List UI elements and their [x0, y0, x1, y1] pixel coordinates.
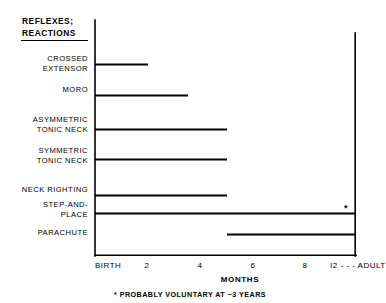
- xtick-label-8: 8: [303, 261, 308, 270]
- row-label-line2: EXTENSOR: [43, 64, 88, 73]
- asterisk-annotation-icon: *: [344, 203, 348, 213]
- reflexes-reactions-timeline-chart: REFLEXES; REACTIONS CROSSED EXTENSOR MOR…: [0, 0, 386, 303]
- row-label-crossed-extensor: CROSSED EXTENSOR: [43, 54, 88, 73]
- row-label-symmetric-tonic-neck: SYMMETRIC TONIC NECK: [37, 146, 88, 165]
- xtick-label-4: 4: [198, 261, 203, 270]
- row-label-line1: PARACHUTE: [38, 228, 88, 237]
- row-label-moro: MORO: [63, 85, 88, 94]
- row-label-line2: TONIC NECK: [37, 156, 88, 165]
- chart-container: REFLEXES; REACTIONS CROSSED EXTENSOR MOR…: [0, 0, 386, 303]
- row-label-line1: MORO: [63, 85, 88, 94]
- x-axis-title: MONTHS: [221, 275, 259, 284]
- row-label-line2: PLACE: [61, 210, 88, 219]
- row-label-neck-righting: NECK RIGHTING: [22, 185, 88, 194]
- row-label-line1: STEP-AND-: [43, 200, 88, 209]
- header-label-line1: REFLEXES;: [22, 16, 74, 26]
- row-label-step-and-place: STEP-AND- PLACE: [43, 200, 88, 219]
- row-label-line1: SYMMETRIC: [38, 146, 88, 155]
- xtick-label-12-adult: I2 - - - ADULT: [330, 261, 386, 270]
- xtick-label-2: 2: [145, 261, 150, 270]
- xtick-label-6: 6: [251, 261, 256, 270]
- xtick-label-birth: BIRTH: [95, 261, 121, 270]
- row-label-line1: ASYMMETRIC: [33, 115, 88, 124]
- chart-footnote: * PROBABLY VOLUNTARY AT ~3 YEARS: [114, 290, 266, 299]
- row-label-line1: NECK RIGHTING: [22, 185, 88, 194]
- row-label-parachute: PARACHUTE: [38, 228, 88, 237]
- header-label-line2: REACTIONS: [22, 28, 76, 38]
- row-label-line1: CROSSED: [47, 54, 88, 63]
- row-label-asymmetric-tonic-neck: ASYMMETRIC TONIC NECK: [33, 115, 88, 134]
- row-label-line2: TONIC NECK: [37, 125, 88, 134]
